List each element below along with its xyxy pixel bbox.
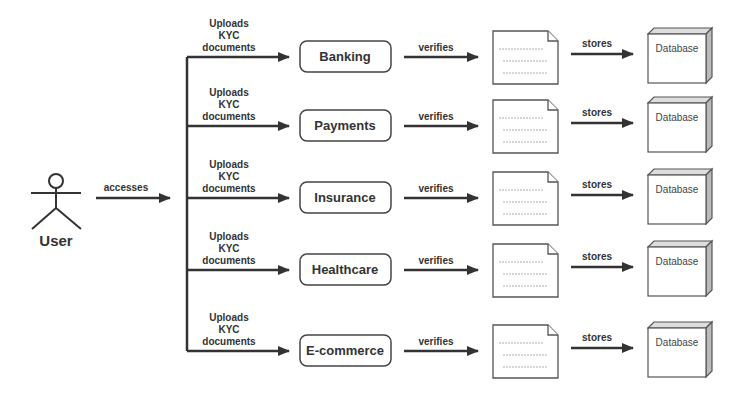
stores-label: stores	[582, 251, 612, 262]
upload-label: KYC	[218, 243, 239, 254]
document-icon	[493, 325, 558, 378]
accesses-label: accesses	[104, 182, 149, 193]
upload-label: Uploads	[209, 312, 249, 323]
database-label: Database	[656, 184, 699, 195]
upload-label: documents	[202, 183, 256, 194]
database-icon: Database	[648, 97, 712, 152]
upload-label: documents	[202, 42, 256, 53]
upload-label: Uploads	[209, 231, 249, 242]
document-icon	[493, 172, 558, 225]
upload-label: documents	[202, 336, 256, 347]
kyc-flow-diagram: User accesses UploadsKYCdocumentsBanking…	[0, 0, 749, 399]
database-label: Database	[656, 112, 699, 123]
database-icon: Database	[648, 28, 712, 83]
upload-label: documents	[202, 255, 256, 266]
verifies-label: verifies	[418, 336, 453, 347]
flow-row: UploadsKYCdocumentsPaymentsverifiesstore…	[187, 87, 712, 153]
stores-label: stores	[582, 332, 612, 343]
user-actor: User	[31, 174, 81, 249]
database-icon: Database	[648, 169, 712, 224]
flow-row: UploadsKYCdocumentsInsuranceverifiesstor…	[187, 159, 712, 225]
upload-label: KYC	[218, 324, 239, 335]
flow-row: UploadsKYCdocumentsBankingverifiesstores…	[187, 18, 712, 84]
service-label: Banking	[319, 49, 370, 64]
upload-label: documents	[202, 111, 256, 122]
database-label: Database	[656, 43, 699, 54]
flow-row: UploadsKYCdocumentsE-commerceverifiessto…	[187, 312, 712, 378]
upload-label: KYC	[218, 171, 239, 182]
flow-row: UploadsKYCdocumentsHealthcareverifiessto…	[187, 231, 712, 297]
service-label: Insurance	[314, 190, 375, 205]
upload-label: Uploads	[209, 18, 249, 29]
document-icon	[493, 31, 558, 84]
upload-label: Uploads	[209, 159, 249, 170]
verifies-label: verifies	[418, 255, 453, 266]
verifies-label: verifies	[418, 111, 453, 122]
document-icon	[493, 244, 558, 297]
verifies-label: verifies	[418, 183, 453, 194]
database-label: Database	[656, 337, 699, 348]
stores-label: stores	[582, 179, 612, 190]
database-label: Database	[656, 256, 699, 267]
accesses-edge: accesses	[96, 182, 170, 198]
database-icon: Database	[648, 241, 712, 296]
upload-label: KYC	[218, 99, 239, 110]
document-icon	[493, 100, 558, 153]
verifies-label: verifies	[418, 42, 453, 53]
stores-label: stores	[582, 38, 612, 49]
database-icon: Database	[648, 322, 712, 377]
stores-label: stores	[582, 107, 612, 118]
user-label: User	[39, 232, 73, 249]
upload-label: KYC	[218, 30, 239, 41]
service-label: Healthcare	[312, 262, 378, 277]
service-label: Payments	[314, 118, 375, 133]
service-label: E-commerce	[306, 343, 384, 358]
upload-label: Uploads	[209, 87, 249, 98]
